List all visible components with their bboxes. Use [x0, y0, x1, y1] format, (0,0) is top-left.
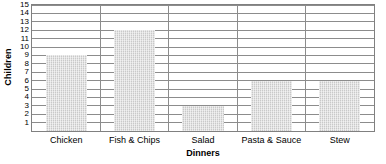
y-tick-label: 4	[25, 93, 29, 101]
x-tick-label: Stew	[306, 134, 374, 146]
x-tick-label: Chicken	[32, 134, 100, 146]
category-divider	[168, 5, 169, 131]
x-axis-title: Dinners	[31, 148, 375, 158]
gridline	[32, 21, 374, 22]
y-tick-label: 8	[25, 60, 29, 68]
bar	[46, 55, 87, 131]
y-tick-label: 5	[25, 85, 29, 93]
y-tick-label: 9	[25, 51, 29, 59]
y-tick-label: 1	[25, 119, 29, 127]
plot-area	[31, 4, 375, 132]
y-axis-title-label: Children	[3, 48, 13, 85]
y-tick-label: 15	[20, 1, 29, 9]
y-tick-label: 6	[25, 77, 29, 85]
bar	[114, 30, 155, 131]
bar-chart: Children 123456789101112131415 ChickenFi…	[0, 0, 386, 164]
y-tick-label: 12	[20, 26, 29, 34]
gridline	[32, 38, 374, 39]
gridline	[32, 13, 374, 14]
y-tick-label: 7	[25, 68, 29, 76]
bar	[319, 81, 360, 131]
category-divider	[237, 5, 238, 131]
y-tick-label: 11	[21, 35, 29, 43]
bar	[251, 81, 292, 131]
bar	[182, 106, 223, 131]
category-divider	[305, 5, 306, 131]
gridline	[32, 47, 374, 48]
y-tick-label: 13	[20, 18, 29, 26]
gridline	[32, 5, 374, 6]
category-divider	[100, 5, 101, 131]
y-tick-label: 14	[20, 9, 29, 17]
y-tick-label: 3	[25, 102, 29, 110]
y-tick-label: 10	[20, 43, 29, 51]
x-tick-label: Salad	[169, 134, 237, 146]
gridline	[32, 30, 374, 31]
y-tick-label: 2	[25, 110, 29, 118]
x-axis-tick-labels: ChickenFish & ChipsSaladPasta & SauceSte…	[31, 134, 375, 148]
y-axis-tick-labels: 123456789101112131415	[14, 4, 30, 132]
x-tick-label: Pasta & Sauce	[237, 134, 305, 146]
x-tick-label: Fish & Chips	[100, 134, 168, 146]
